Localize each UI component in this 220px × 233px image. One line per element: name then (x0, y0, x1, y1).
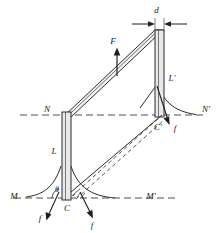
left-column (62, 112, 71, 200)
dimension-d-left-arrowhead (148, 21, 155, 27)
projection-lines-to-Cprime (72, 117, 164, 199)
label-point-Lprime: L' (168, 73, 177, 83)
figure-container: d F f f f θ (0, 0, 220, 233)
label-point-Cprime: C' (154, 122, 163, 132)
friction-f-right-shaft (80, 192, 91, 214)
reference-lines (14, 32, 205, 198)
force-F-arrowhead (114, 48, 121, 56)
lower-diagonal-strut (71, 115, 162, 192)
label-friction-f-right: f (91, 220, 95, 230)
label-point-C: C (64, 203, 71, 213)
label-angle-theta: θ (55, 185, 59, 194)
projection-line-lower (76, 120, 164, 199)
label-length-L: L (50, 146, 56, 156)
deflection-curve-bottom-right (71, 166, 115, 198)
label-node-Mprime: M' (145, 191, 156, 201)
label-node-Nprime: N' (201, 104, 211, 114)
friction-f-upper-arrowhead (164, 116, 170, 125)
label-friction-f-upper: f (174, 123, 178, 133)
friction-f-right-arrowhead (87, 210, 93, 219)
left-column-body (62, 112, 71, 200)
label-node-N: N (43, 104, 51, 114)
friction-f-left-shaft (48, 192, 59, 216)
label-friction-f-left: f (39, 213, 43, 223)
deflection-curves (26, 84, 196, 198)
hatch-tick-2 (77, 192, 81, 197)
strut-line-main (71, 115, 162, 192)
node-labels: N N' M M' L L' C C' (9, 73, 211, 213)
angle-theta: θ (52, 185, 59, 198)
friction-force-bottom-left: f (39, 192, 59, 223)
label-force-F: F (109, 36, 116, 46)
hatch-tick-1 (73, 191, 77, 196)
mechanics-diagram: d F f f f θ (0, 0, 220, 233)
friction-f-left-arrowhead (46, 212, 52, 221)
projection-line-upper (72, 117, 160, 196)
dimension-d-right-arrowhead (164, 21, 171, 27)
label-dimension-d: d (154, 5, 159, 15)
label-node-M: M (9, 191, 18, 201)
dimension-d: d (132, 5, 187, 31)
